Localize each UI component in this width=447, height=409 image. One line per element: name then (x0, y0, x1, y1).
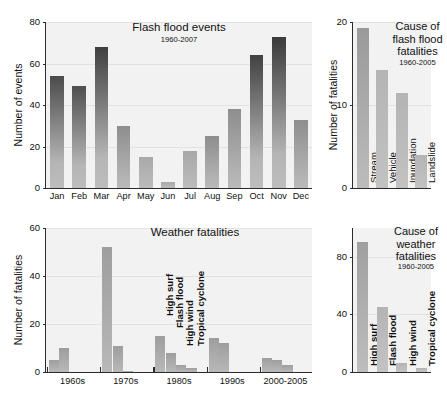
title-line: fatalities (380, 45, 447, 58)
y-axis-label-weather-fatalities: Number of fatalities (12, 255, 24, 345)
chart-subtitle-cause-of-flash-flood-fatalities: 1960-2005 (380, 58, 447, 67)
x-tick-label-flash-flood-events-Sep: Sep (223, 191, 245, 201)
y-axis-label-flash-flood-events: Number of events (12, 64, 24, 147)
bar-weather-fatalities-1980s-flash-flood (166, 353, 176, 372)
bar-weather-fatalities-1960s-high-surf (49, 360, 59, 372)
y-tick-label-cause-of-weather-fatalities-0: 0 (333, 366, 347, 377)
y-tick-label-flash-flood-events-80: 80 (22, 16, 40, 27)
y-axis-cause-of-weather-fatalities (352, 228, 353, 372)
bar-label-cause-of-weather-fatalities-high-wind: High wind (407, 320, 418, 366)
panel-weather-fatalities: 0204060Number of fatalities1960s1970s198… (46, 228, 312, 372)
chart-title-flash-flood-events: Flash flood events (94, 21, 264, 33)
bar-weather-fatalities-1970s-high-wind (123, 371, 133, 373)
x-tick-label-flash-flood-events-Feb: Feb (68, 191, 90, 201)
x-tick-label-weather-fatalities-1970s: 1970s (99, 376, 152, 386)
y-tick-label-weather-fatalities-0: 0 (22, 366, 40, 377)
chart-title-cause-of-weather-fatalities: Cause ofweatherfatalities (378, 225, 447, 263)
title-line: weather (378, 238, 447, 251)
x-tick-label-weather-fatalities-1990s: 1990s (206, 376, 259, 386)
x-tick-label-flash-flood-events-Nov: Nov (268, 191, 290, 201)
bar-weather-fatalities-2000-2005-flash-flood (272, 360, 282, 372)
bar-weather-fatalities-1990s-flash-flood (219, 343, 229, 372)
bar-cause-of-weather-fatalities-tropical-cyclone (416, 368, 427, 372)
series-annotation-high-wind: High wind (184, 300, 195, 346)
panel-flash-flood-events: 020406080Number of eventsJanFebMarAprMay… (46, 22, 312, 188)
bar-flash-flood-events-Oct (250, 55, 264, 188)
x-tick-label-flash-flood-events-Oct: Oct (246, 191, 268, 201)
y-tick-label-flash-flood-events-60: 60 (22, 58, 40, 69)
bar-weather-fatalities-1990s-high-surf (209, 338, 219, 372)
chart-subtitle-flash-flood-events: 1960-2007 (94, 35, 264, 44)
bar-flash-flood-events-Dec (294, 120, 308, 188)
y-tick-label-weather-fatalities-60: 60 (22, 222, 40, 233)
x-tick-label-flash-flood-events-Jun: Jun (157, 191, 179, 201)
y-tick-label-cause-of-weather-fatalities-40: 40 (333, 308, 347, 319)
bar-flash-flood-events-Apr (117, 126, 131, 188)
bar-flash-flood-events-Mar (95, 47, 109, 188)
y-tick-label-cause-of-flash-flood-fatalities-20: 20 (333, 16, 347, 27)
y-axis-label-cause-of-flash-flood-fatalities: Number of fatalities (327, 60, 339, 150)
x-axis-flash-flood-events (45, 188, 312, 189)
series-annotation-high-surf: High surf (164, 274, 175, 316)
x-tick-label-flash-flood-events-Jan: Jan (46, 191, 68, 201)
bar-flash-flood-events-Jul (183, 151, 197, 188)
x-tick-label-flash-flood-events-Apr: Apr (113, 191, 135, 201)
panel-cause-of-weather-fatalities: 04080High surfFlash floodHigh windTropic… (353, 228, 431, 372)
bar-flash-flood-events-Jun (161, 182, 175, 188)
x-tick-label-flash-flood-events-Dec: Dec (290, 191, 312, 201)
x-tick-label-weather-fatalities-1980s: 1980s (152, 376, 205, 386)
bar-cause-of-flash-flood-fatalities-inundation (396, 93, 408, 188)
series-annotation-tropical-cyclone: Tropical cyclone (195, 271, 206, 346)
x-tick-label-flash-flood-events-May: May (135, 191, 157, 201)
y-tick-label-flash-flood-events-20: 20 (22, 141, 40, 152)
bar-label-cause-of-weather-fatalities-tropical-cyclone: Tropical cyclone (426, 291, 437, 366)
y-axis-cause-of-flash-flood-fatalities (352, 22, 353, 188)
bar-weather-fatalities-1980s-high-wind (176, 365, 186, 372)
bar-flash-flood-events-Nov (272, 37, 286, 188)
bar-cause-of-flash-flood-fatalities-stream (357, 28, 369, 188)
x-axis-cause-of-flash-flood-fatalities (352, 188, 431, 189)
y-tick-label-cause-of-weather-fatalities-80: 80 (333, 251, 347, 262)
x-tick-label-flash-flood-events-Mar: Mar (90, 191, 112, 201)
chart-title-weather-fatalities: Weather fatalities (115, 226, 275, 238)
bar-cause-of-weather-fatalities-high-surf (357, 242, 368, 372)
bar-weather-fatalities-1980s-tropical-cyclone (186, 368, 196, 372)
y-axis-flash-flood-events (45, 22, 46, 188)
title-line: flash flood (380, 33, 447, 46)
bar-label-cause-of-weather-fatalities-flash-flood: Flash flood (387, 315, 398, 366)
y-tick-label-weather-fatalities-20: 20 (22, 318, 40, 329)
bar-weather-fatalities-1970s-flash-flood (113, 346, 123, 372)
y-axis-weather-fatalities (45, 228, 46, 372)
bar-flash-flood-events-Feb (72, 86, 86, 188)
panel-cause-of-flash-flood-fatalities: 01020Number of fatalitiesStreamVehicleIn… (353, 22, 431, 188)
x-tick-label-flash-flood-events-Aug: Aug (201, 191, 223, 201)
bar-cause-of-weather-fatalities-high-wind (396, 363, 407, 372)
chart-title-cause-of-flash-flood-fatalities: Cause offlash floodfatalities (380, 20, 447, 58)
bar-flash-flood-events-Aug (205, 136, 219, 188)
bar-flash-flood-events-May (139, 157, 153, 188)
bar-weather-fatalities-2000-2005-high-surf (262, 358, 272, 372)
x-tick-label-weather-fatalities-2000-2005: 2000-2005 (259, 376, 312, 386)
title-line: Cause of (380, 20, 447, 33)
x-tick-label-flash-flood-events-Jul: Jul (179, 191, 201, 201)
y-tick-label-flash-flood-events-40: 40 (22, 99, 40, 110)
title-line: Cause of (378, 225, 447, 238)
bar-weather-fatalities-1970s-high-surf (102, 247, 112, 372)
chart-subtitle-cause-of-weather-fatalities: 1960-2005 (378, 262, 447, 271)
bar-weather-fatalities-1980s-high-surf (155, 336, 165, 372)
y-tick-label-flash-flood-events-0: 0 (22, 182, 40, 193)
bar-flash-flood-events-Sep (228, 109, 242, 188)
y-tick-label-cause-of-flash-flood-fatalities-0: 0 (333, 182, 347, 193)
title-line: fatalities (378, 250, 447, 263)
bar-weather-fatalities-2000-2005-high-wind (282, 365, 292, 372)
bar-flash-flood-events-Jan (50, 76, 64, 188)
y-tick-label-weather-fatalities-40: 40 (22, 270, 40, 281)
bar-weather-fatalities-1960s-flash-flood (59, 348, 69, 372)
x-axis-cause-of-weather-fatalities (352, 372, 431, 373)
bar-label-cause-of-flash-flood-fatalities-landslide: Landslide (426, 142, 437, 183)
x-axis-weather-fatalities (45, 372, 312, 373)
x-tick-label-weather-fatalities-1960s: 1960s (46, 376, 99, 386)
